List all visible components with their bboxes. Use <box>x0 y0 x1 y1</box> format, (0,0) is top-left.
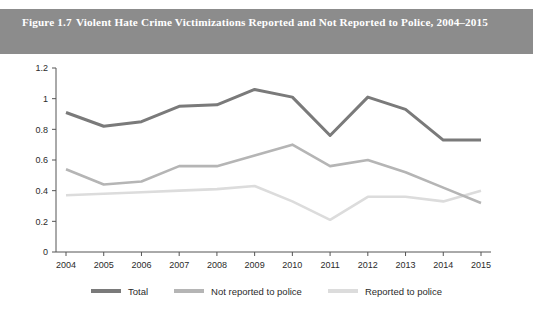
legend-item[interactable]: Total <box>91 286 148 297</box>
x-tick-label: 2012 <box>358 260 378 270</box>
x-tick-label: 2008 <box>207 260 227 270</box>
series-line <box>66 89 481 140</box>
x-tick-label: 2010 <box>282 260 302 270</box>
y-tick-label: 0 <box>43 247 48 257</box>
y-tick-label: 0.8 <box>35 125 48 135</box>
series-line <box>66 186 481 220</box>
legend-swatch <box>174 289 204 293</box>
x-tick-label: 2011 <box>320 260 339 270</box>
x-tick-label: 2015 <box>471 260 491 270</box>
line-chart: 00.20.40.60.811.2 2004200520062007200820… <box>0 54 533 309</box>
chart-region: 00.20.40.60.811.2 2004200520062007200820… <box>0 54 533 309</box>
chart-legend: TotalNot reported to policeReported to p… <box>0 281 533 301</box>
chart-series-group <box>66 89 481 219</box>
x-tick-label: 2005 <box>94 260 114 270</box>
x-tick-label: 2004 <box>56 260 76 270</box>
legend-label: Reported to police <box>365 286 442 297</box>
y-tick-label: 1 <box>43 94 48 104</box>
y-tick-label: 0.2 <box>35 217 48 227</box>
legend-label: Total <box>128 286 148 297</box>
figure-header-text: Figure 1.7Violent Hate Crime Victimizati… <box>22 15 515 30</box>
figure-title: Violent Hate Crime Victimizations Report… <box>76 16 488 28</box>
x-tick-label: 2013 <box>396 260 416 270</box>
legend-label: Not reported to police <box>211 286 302 297</box>
x-axis: 2004200520062007200820092010201120122013… <box>56 252 491 270</box>
x-tick-label: 2007 <box>169 260 189 270</box>
x-tick-label: 2014 <box>433 260 453 270</box>
y-tick-label: 0.6 <box>35 155 48 165</box>
y-tick-label: 1.2 <box>35 63 48 73</box>
y-axis: 00.20.40.60.811.2 <box>35 63 56 257</box>
figure-header-band: Figure 1.7Violent Hate Crime Victimizati… <box>0 9 533 54</box>
x-tick-label: 2006 <box>131 260 151 270</box>
legend-swatch <box>91 289 121 293</box>
legend-item[interactable]: Not reported to police <box>174 286 302 297</box>
y-tick-label: 0.4 <box>35 186 48 196</box>
figure-number: Figure 1.7 <box>22 15 76 30</box>
legend-swatch <box>328 289 358 293</box>
legend-item[interactable]: Reported to police <box>328 286 442 297</box>
x-tick-label: 2009 <box>245 260 265 270</box>
